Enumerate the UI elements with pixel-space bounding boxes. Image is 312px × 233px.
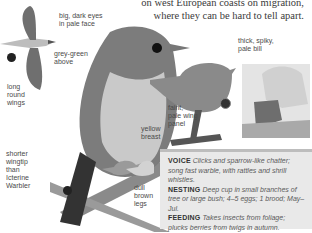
season-symbol-icon bbox=[220, 98, 231, 109]
info-similar: SIMILAR SPECIES Icterine Warbler, Willow… bbox=[168, 232, 306, 233]
info-feeding: FEEDING Takes insects from foliage; pluc… bbox=[168, 213, 306, 232]
label-wings: longroundwings bbox=[7, 83, 25, 107]
species-info-box: VOICE Clicks and sparrow-like chatter; s… bbox=[160, 149, 312, 229]
label-upperparts: grey-greenabove bbox=[54, 50, 88, 66]
flight-symbol-icon bbox=[7, 53, 16, 62]
label-legs: dullbrownlegs bbox=[134, 184, 153, 208]
label-bill: thick, spiky,pale bill bbox=[238, 37, 274, 53]
label-wingtip: shorterwingtipthanIcterineWarbler bbox=[6, 150, 30, 190]
intro-line-1: on west European coasts on migration, bbox=[104, 0, 304, 9]
label-eyes: big, dark eyesin pale face bbox=[59, 12, 103, 28]
size-silhouette bbox=[102, 155, 154, 179]
info-voice: VOICE Clicks and sparrow-like chatter; s… bbox=[168, 156, 306, 185]
label-wing-panel: faint,pale wingpanel bbox=[168, 104, 198, 128]
distribution-map bbox=[242, 64, 310, 138]
male-female-symbol-icon bbox=[63, 186, 72, 195]
label-breast: yellowbreast bbox=[141, 125, 160, 141]
info-nesting: NESTING Deep cup in small branches of tr… bbox=[168, 185, 306, 214]
